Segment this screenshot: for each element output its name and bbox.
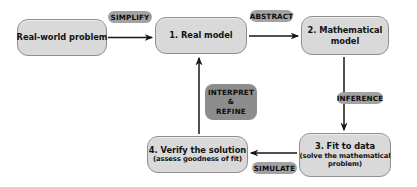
node-real-world-problem-label: Real-world problem xyxy=(17,32,108,43)
edge-label-interpret-refine: INTERPRET & REFINE xyxy=(205,84,257,120)
edge-label-interpret-refine-line1: INTERPRET xyxy=(208,88,254,98)
edge-label-inference-text: INFERENCE xyxy=(337,94,384,103)
node-verify-the-solution[interactable]: 4. Verify the solution (assess goodness … xyxy=(147,136,248,173)
edge-label-simulate: SIMULATE xyxy=(252,162,297,174)
node-fit-to-data-subtext-line2: problem) xyxy=(328,160,362,169)
node-mathematical-model-label-line2: model xyxy=(331,36,360,47)
node-fit-to-data-subtext-line1: (solve the mathematical xyxy=(300,152,391,161)
node-mathematical-model[interactable]: 2. Mathematical model xyxy=(301,16,389,55)
edge-label-interpret-refine-ampersand: & xyxy=(228,98,234,107)
edge-label-simplify: SIMPLIFY xyxy=(108,11,152,23)
edge-label-simulate-text: SIMULATE xyxy=(254,164,295,173)
node-real-world-problem[interactable]: Real-world problem xyxy=(17,19,107,56)
edge-label-abstract-text: ABSTRACT xyxy=(250,12,294,21)
node-fit-to-data-label: 3. Fit to data xyxy=(315,141,375,152)
node-real-model-label: 1. Real model xyxy=(169,30,232,41)
node-fit-to-data[interactable]: 3. Fit to data (solve the mathematical p… xyxy=(299,133,391,177)
node-mathematical-model-label-line1: 2. Mathematical xyxy=(308,25,383,36)
edge-label-inference: INFERENCE xyxy=(337,92,383,104)
modelling-cycle-diagram: Real-world problem 1. Real model 2. Math… xyxy=(0,0,417,187)
node-verify-the-solution-label: 4. Verify the solution xyxy=(149,145,246,156)
node-real-model[interactable]: 1. Real model xyxy=(155,17,247,54)
node-verify-the-solution-subtext: (assess goodness of fit) xyxy=(153,155,242,164)
edge-label-interpret-refine-line3: REFINE xyxy=(216,107,246,117)
edge-label-simplify-text: SIMPLIFY xyxy=(111,13,150,22)
edge-label-abstract: ABSTRACT xyxy=(250,10,293,22)
